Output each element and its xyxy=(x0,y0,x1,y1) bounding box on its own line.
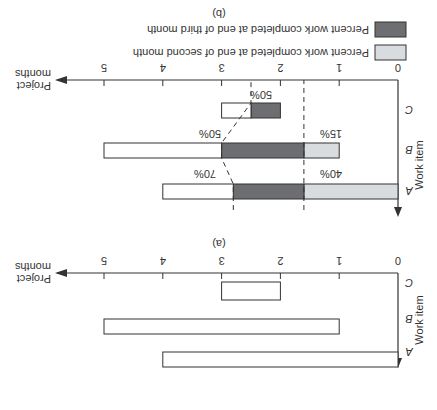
item-label-b: B xyxy=(405,313,412,325)
bar-c-remaining xyxy=(222,103,251,118)
y-axis-arrow-icon xyxy=(394,207,402,217)
pct-c-month3: 50% xyxy=(250,89,272,101)
tick-3: 3 xyxy=(219,62,225,74)
caption-b: (b) xyxy=(212,8,225,20)
item-label-c: C xyxy=(405,277,413,289)
x-axis-label-line2: months xyxy=(14,261,51,273)
tick-0: 0 xyxy=(395,255,401,267)
bar-a-month2 xyxy=(304,184,398,199)
bar-a-month3 xyxy=(233,184,304,199)
x-axis-label-line1: Project xyxy=(17,273,51,285)
tick-5: 5 xyxy=(101,62,107,74)
tick-4: 4 xyxy=(160,62,166,74)
y-axis-label: Work item xyxy=(413,140,425,189)
bar-b-month3 xyxy=(222,143,304,158)
gantt-figure: 0 1 2 3 4 5 Project months Work item A B… xyxy=(0,0,437,410)
tick-0: 0 xyxy=(395,62,401,74)
legend-swatch-month2 xyxy=(375,45,406,60)
legend-label-month3: Percent work completed at end of third m… xyxy=(147,24,369,36)
pct-b-month2: 15% xyxy=(320,128,342,140)
item-label-a: A xyxy=(405,346,413,358)
tick-1: 1 xyxy=(336,62,342,74)
tick-4: 4 xyxy=(160,255,166,267)
x-axis-arrow-icon xyxy=(55,76,67,84)
panel-a: 0 1 2 3 4 5 Project months Work item A B… xyxy=(14,238,425,368)
pct-b-month3: 50% xyxy=(199,128,221,140)
tick-5: 5 xyxy=(101,255,107,267)
legend-label-month2: Percent work completed at end of second … xyxy=(133,47,369,59)
y-axis-label: Work item xyxy=(413,295,425,344)
bar-c-month3 xyxy=(251,103,280,118)
x-axis-label-line2: months xyxy=(14,68,51,80)
tick-2: 2 xyxy=(277,255,283,267)
bar-b-remaining xyxy=(104,143,222,158)
bar-a-remaining xyxy=(163,184,234,199)
tick-1: 1 xyxy=(336,255,342,267)
x-axis-arrow-icon xyxy=(55,269,67,277)
bar-b-month2 xyxy=(304,143,339,158)
pct-a-month2: 40% xyxy=(320,168,342,180)
bar-b xyxy=(104,319,339,334)
caption-a: (a) xyxy=(212,238,225,250)
item-label-c: C xyxy=(405,104,413,116)
tick-3: 3 xyxy=(219,255,225,267)
item-label-a: A xyxy=(405,185,413,197)
bar-c xyxy=(222,282,281,300)
panel-b: Work item 40% 70% A 15% 50% B 50% C xyxy=(14,8,425,217)
pct-a-month3: 70% xyxy=(194,168,216,180)
legend-swatch-month3 xyxy=(375,22,406,37)
bar-a xyxy=(163,352,398,367)
item-label-b: B xyxy=(405,144,412,156)
tick-2: 2 xyxy=(277,62,283,74)
x-axis-label-line1: Project xyxy=(17,80,51,92)
